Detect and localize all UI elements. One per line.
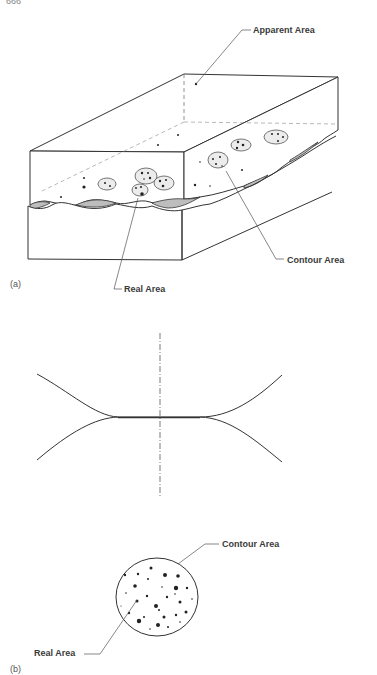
contour-area-label-a: Contour Area bbox=[287, 255, 344, 265]
part-a-label: (a) bbox=[10, 279, 21, 289]
real-area-label-a: Real Area bbox=[124, 284, 165, 294]
real-area-label-b: Real Area bbox=[34, 648, 75, 658]
contour-area-label-b: Contour Area bbox=[222, 539, 279, 549]
contact-area-diagram bbox=[0, 0, 377, 675]
apparent-area-label: Apparent Area bbox=[253, 25, 315, 35]
asperity-profile bbox=[37, 374, 282, 462]
part-b-label: (b) bbox=[10, 664, 21, 674]
upper-block bbox=[30, 74, 338, 205]
